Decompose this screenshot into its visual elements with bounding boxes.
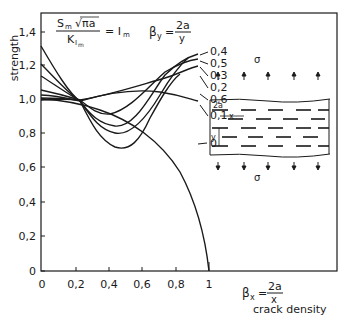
svg-text:σ: σ [254, 172, 261, 183]
svg-text:1,2: 1,2 [19, 59, 37, 72]
legend-formula: β y = 2a y [149, 19, 191, 44]
svg-text:x: x [229, 112, 234, 121]
svg-text:0: 0 [29, 265, 36, 278]
svg-text:=: = [165, 26, 174, 39]
svg-text:0,4: 0,4 [100, 278, 118, 291]
curves [41, 46, 209, 271]
svg-text:2a: 2a [213, 101, 223, 110]
svg-text:x: x [250, 293, 255, 302]
plot-frame [41, 13, 337, 271]
x-tick-labels: 0 0,2 0,4 0,6 0,8 1 [39, 278, 213, 291]
svg-text:m: m [78, 41, 84, 48]
svg-text:m: m [123, 31, 130, 39]
svg-text:0,8: 0,8 [167, 278, 185, 291]
y-axis-label: strength [8, 35, 21, 81]
svg-text:0,2: 0,2 [19, 230, 37, 243]
legend-arrows [198, 52, 208, 144]
svg-text:0,6: 0,6 [133, 278, 151, 291]
svg-text:β: β [149, 25, 157, 39]
svg-text:√πa: √πa [75, 17, 95, 30]
svg-text:m: m [65, 23, 72, 31]
svg-text:2a: 2a [268, 280, 282, 293]
svg-text:0,8: 0,8 [19, 127, 37, 140]
x-axis-label: crack density [253, 303, 327, 316]
svg-text:I: I [75, 39, 77, 47]
chart-figure: 0 0,2 0,4 0,6 0,8 1,0 1,2 1,4 strength 0… [0, 0, 345, 321]
svg-text:y: y [179, 33, 185, 44]
svg-text:K: K [67, 33, 75, 46]
svg-text:β: β [242, 286, 250, 300]
x-formula: β x = 2a x [242, 280, 283, 305]
svg-text:0: 0 [39, 278, 46, 291]
svg-text:S: S [57, 17, 64, 30]
y-tick-labels: 0 0,2 0,4 0,6 0,8 1,0 1,2 1,4 [19, 26, 37, 278]
svg-text:=: = [258, 287, 267, 300]
y-formula: S m √πa K I m = I m [56, 17, 130, 48]
svg-text:0,1: 0,1 [210, 109, 228, 122]
stress-arrows-top [216, 72, 320, 80]
svg-text:0,4: 0,4 [19, 196, 37, 209]
svg-text:y: y [157, 32, 162, 41]
curve-0.4 [41, 54, 198, 126]
svg-text:0,2: 0,2 [67, 278, 85, 291]
svg-text:y: y [211, 133, 216, 142]
stress-arrows-bottom [216, 162, 320, 170]
svg-text:1,4: 1,4 [19, 26, 37, 39]
svg-text:1: 1 [206, 278, 213, 291]
svg-text:σ: σ [254, 54, 261, 65]
svg-text:2a: 2a [176, 19, 190, 32]
x-axis [76, 262, 209, 271]
svg-text:= I: = I [105, 25, 121, 38]
svg-text:0,6: 0,6 [19, 161, 37, 174]
svg-text:1,0: 1,0 [19, 93, 37, 106]
inset-diagram: σ σ 2a x y [210, 54, 330, 183]
